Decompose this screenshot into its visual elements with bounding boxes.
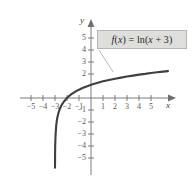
formula-x-inner: x <box>148 34 153 45</box>
formula-equals: = <box>129 34 135 45</box>
y-tick-label: 5 <box>75 34 86 42</box>
formula-paren-close: ) <box>122 34 125 45</box>
x-tick-label: −2 <box>61 103 73 111</box>
plot-canvas <box>0 0 193 187</box>
y-tick-label: −5 <box>73 154 86 162</box>
y-tick-label: 3 <box>75 58 86 66</box>
y-tick-label: 2 <box>75 70 86 78</box>
x-tick-label: 5 <box>145 103 157 111</box>
formula-plus: + <box>155 34 161 45</box>
y-tick-label: −3 <box>73 130 86 138</box>
formula-paren-close-2: ) <box>169 34 172 45</box>
callout-leader-line <box>99 50 113 72</box>
x-tick-label: 4 <box>133 103 145 111</box>
x-tick-label: −4 <box>37 103 49 111</box>
x-axis-label: x <box>166 101 170 110</box>
formula-ln: ln <box>137 34 145 45</box>
graph-figure: −5 −4 −3 −2 −1 1 2 3 4 5 5 4 3 2 −1 −2 −… <box>0 0 193 187</box>
y-tick-label: −4 <box>73 142 86 150</box>
y-axis <box>88 19 95 175</box>
y-tick-label: −2 <box>73 118 86 126</box>
formula-callout-box: f(x) = ln(x + 3) <box>97 30 187 49</box>
x-tick-label: −3 <box>49 103 61 111</box>
y-axis-label: y <box>80 16 84 25</box>
x-tick-label: 1 <box>97 103 109 111</box>
y-tick-label: 4 <box>75 46 86 54</box>
y-tick-label: −1 <box>73 106 86 114</box>
function-curve <box>55 71 168 168</box>
x-tick-label: 2 <box>109 103 121 111</box>
formula-text: f(x) = ln(x + 3) <box>112 34 173 45</box>
x-tick-label: −5 <box>25 103 37 111</box>
x-tick-label: 3 <box>121 103 133 111</box>
